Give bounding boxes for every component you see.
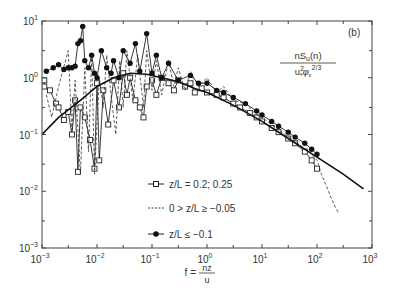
spectrum-chart: 10−310−210−110010110210310−310−210−11001…	[0, 0, 393, 291]
ylabel-numerator: nSu(n)	[294, 50, 321, 62]
y-tick-exp: −3	[30, 241, 38, 248]
legend-square-marker	[154, 182, 159, 187]
square-marker	[137, 105, 142, 110]
series-line-0	[44, 73, 317, 172]
y-tick-base: 10	[19, 186, 31, 197]
circle-marker	[309, 147, 314, 152]
square-marker	[154, 92, 159, 97]
ylabel-num-tail: (n)	[310, 50, 322, 61]
square-marker	[141, 115, 146, 120]
circle-marker	[78, 38, 83, 43]
square-marker	[75, 169, 80, 174]
x-tick-label: 10−3	[30, 252, 49, 265]
y-tick-exp: 1	[34, 14, 38, 21]
x-tick-base: 10	[85, 254, 97, 265]
square-marker	[124, 92, 129, 97]
square-marker	[56, 105, 61, 110]
x-tick-label: 103	[362, 252, 377, 265]
square-marker	[42, 78, 47, 83]
square-marker	[315, 166, 320, 171]
x-tick-base: 10	[252, 254, 264, 265]
circle-marker	[302, 141, 307, 146]
square-marker	[166, 81, 171, 86]
circle-marker	[51, 65, 56, 70]
circle-marker	[144, 31, 149, 36]
circle-marker	[292, 134, 297, 139]
x-tick-base: 10	[30, 254, 42, 265]
circle-marker	[133, 41, 138, 46]
square-marker	[97, 158, 102, 163]
y-tick-label: 101	[23, 14, 38, 27]
square-marker	[192, 90, 197, 95]
circle-marker	[254, 108, 259, 113]
y-tick-label: 100	[23, 71, 38, 84]
xlabel-num: nz	[202, 263, 212, 273]
panel-label: (b)	[348, 27, 360, 38]
circle-marker	[44, 69, 49, 74]
circle-marker	[276, 124, 281, 129]
circle-marker	[72, 63, 77, 68]
ylabel-denominator: u2*φε2/3	[295, 64, 322, 79]
circle-marker	[99, 48, 104, 53]
circle-marker	[127, 61, 132, 66]
circle-marker	[121, 48, 126, 53]
legend-label-dashed: 0 > z/L ≥ −0.05	[169, 203, 236, 214]
circle-marker	[104, 65, 109, 70]
y-tick-label: 10−3	[19, 241, 38, 254]
y-tick-exp: 0	[34, 71, 38, 78]
x-tick-exp: −1	[152, 252, 160, 259]
x-tick-label: 102	[307, 252, 322, 265]
circle-marker	[86, 65, 91, 70]
circle-marker	[259, 112, 264, 117]
axis-labels: (b)nSu(n)u2*φε2/3f =nzu	[185, 27, 361, 285]
square-marker	[188, 81, 193, 86]
ylabel-num-main: nS	[294, 50, 306, 61]
circle-marker	[286, 129, 291, 134]
y-tick-exp: −2	[30, 184, 38, 191]
x-tick-exp: −3	[42, 252, 50, 259]
ylabel-den-exp: 2/3	[312, 64, 322, 71]
circle-marker	[89, 52, 94, 57]
circle-marker	[243, 101, 248, 106]
circle-marker	[166, 61, 171, 66]
square-marker	[61, 118, 66, 123]
circle-marker	[188, 73, 193, 78]
x-tick-exp: −2	[97, 252, 105, 259]
circle-marker	[82, 58, 87, 63]
square-marker	[42, 84, 47, 89]
circle-marker	[231, 95, 236, 100]
y-tick-label: 10−1	[19, 128, 38, 141]
legend: z/L = 0.2; 0.250 > z/L ≥ −0.05z/L ≤ −0.1	[148, 179, 236, 240]
x-tick-label: 10−1	[140, 252, 159, 265]
square-marker	[133, 98, 138, 103]
circle-marker	[80, 24, 85, 29]
y-tick-base: 10	[19, 130, 31, 141]
circle-marker	[214, 88, 219, 93]
legend-label-squares: z/L = 0.2; 0.25	[169, 179, 233, 190]
legend-label-circles: z/L ≤ −0.1	[169, 229, 213, 240]
legend-circle-marker	[153, 231, 159, 237]
circle-marker	[269, 119, 274, 124]
x-tick-label: 10−2	[85, 252, 104, 265]
circle-marker	[111, 58, 116, 63]
x-tick-label: 101	[252, 252, 267, 265]
x-tick-exp: 2	[319, 252, 323, 259]
xlabel-lhs: f =	[185, 267, 197, 278]
square-marker	[309, 158, 314, 163]
x-tick-exp: 1	[264, 252, 268, 259]
square-marker	[48, 88, 53, 93]
y-tick-exp: −1	[30, 128, 38, 135]
y-tick-base: 10	[19, 243, 31, 254]
x-tick-base: 10	[140, 254, 152, 265]
y-tick-label: 10−2	[19, 184, 38, 197]
circle-marker	[196, 81, 201, 86]
circle-marker	[154, 52, 159, 57]
axes: 10−310−210−110010110210310−310−210−11001…	[19, 14, 378, 265]
circle-marker	[204, 81, 209, 86]
x-tick-base: 10	[362, 254, 374, 265]
y-tick-base: 10	[23, 73, 35, 84]
y-tick-base: 10	[23, 16, 35, 27]
circle-marker	[56, 62, 61, 67]
circle-marker	[221, 90, 226, 95]
circle-marker	[94, 75, 99, 80]
